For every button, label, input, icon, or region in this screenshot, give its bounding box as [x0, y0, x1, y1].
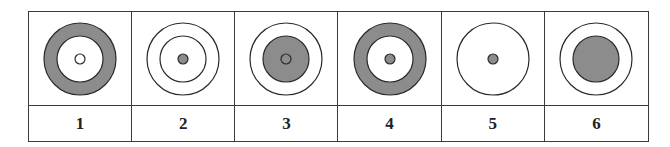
- label-cell-5: 5: [442, 106, 545, 141]
- figure-label: 6: [592, 114, 601, 134]
- concentric-circles-icon: [246, 19, 326, 99]
- figure-cell-5: [442, 12, 545, 106]
- label-cell-3: 3: [235, 106, 338, 141]
- label-cell-2: 2: [132, 106, 235, 141]
- label-cell-6: 6: [545, 106, 648, 141]
- figure-cell-3: [235, 12, 338, 106]
- figure-cell-6: [545, 12, 648, 106]
- label-cell-1: 1: [29, 106, 132, 141]
- label-cell-4: 4: [338, 106, 441, 141]
- concentric-circles-icon: [40, 19, 120, 99]
- concentric-circles-icon: [556, 19, 636, 99]
- concentric-circles-icon: [350, 19, 430, 99]
- figure-label: 4: [385, 114, 394, 134]
- figure-label: 1: [76, 114, 85, 134]
- figure-cell-1: [29, 12, 132, 106]
- figure-label: 3: [282, 114, 291, 134]
- figure-label: 5: [488, 114, 497, 134]
- concentric-circles-icon: [453, 19, 533, 99]
- figure-label: 2: [179, 114, 188, 134]
- figure-cell-4: [338, 12, 441, 106]
- figure-cell-2: [132, 12, 235, 106]
- concentric-circles-icon: [143, 19, 223, 99]
- figure-sequence-table: 1 2 3 4 5 6: [28, 11, 649, 142]
